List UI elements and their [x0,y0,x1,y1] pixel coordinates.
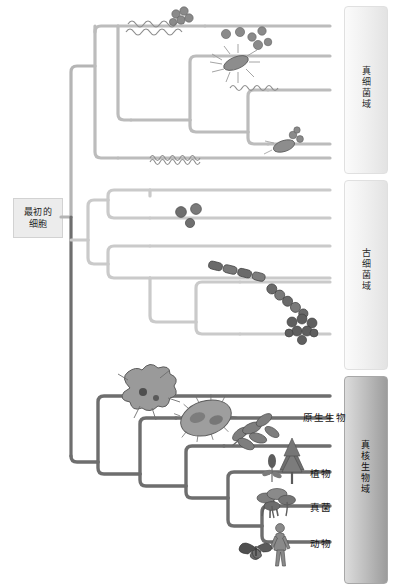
organism-plant-sprig [230,411,281,452]
leaf-label-protists: 原生生物 [303,410,347,424]
leaf-label-plants: 植物 [310,466,332,480]
leaf-label-animals: 动物 [310,536,332,550]
organism-paramecium [171,387,241,449]
organism-flagellated-bacillus [210,44,260,83]
organism-cocci-scatter [221,27,271,50]
organism-bacillus-lower [264,127,303,155]
organism-spiral-filament [150,156,200,165]
organism-tree-and-flower [261,438,304,484]
organism-archaeal-cocci [176,204,202,228]
organism-amoeba [118,364,180,420]
leaf-label-fungi: 真菌 [310,500,332,514]
organism-illustrations [0,0,400,588]
organism-mushrooms [257,489,296,519]
organism-cocci-cluster-top [169,7,193,26]
organism-animals [239,524,290,566]
organism-wavy-filament [230,86,278,91]
phylogenetic-tree-diagram: 真细菌域 古细菌域 真核生物域 最初的 细胞 [0,0,400,588]
organism-archaeal-cluster [285,314,318,345]
organism-archaeal-rod-chain [208,260,266,282]
